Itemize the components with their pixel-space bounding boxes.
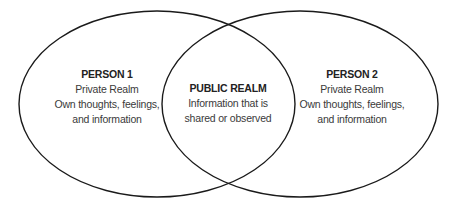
person-2-line-1: Private Realm <box>299 82 404 97</box>
public-realm-line-1: Information that is <box>185 96 272 111</box>
person-2-line-2: Own thoughts, feelings, <box>299 97 404 112</box>
person-1-title: PERSON 1 <box>54 67 159 82</box>
person-1-line-3: and information <box>54 112 159 127</box>
person-1-line-1: Private Realm <box>54 82 159 97</box>
public-realm-label: PUBLIC REALM Information that is shared … <box>185 81 272 126</box>
public-realm-title: PUBLIC REALM <box>185 81 272 96</box>
public-realm-line-2: shared or observed <box>185 111 272 126</box>
person-1-label: PERSON 1 Private Realm Own thoughts, fee… <box>54 67 159 127</box>
person-2-line-3: and information <box>299 112 404 127</box>
person-2-title: PERSON 2 <box>299 67 404 82</box>
person-1-line-2: Own thoughts, feelings, <box>54 97 159 112</box>
person-2-label: PERSON 2 Private Realm Own thoughts, fee… <box>299 67 404 127</box>
